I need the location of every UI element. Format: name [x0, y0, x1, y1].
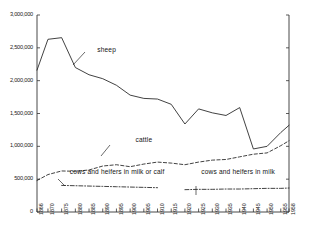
x-axis-tick-label: 1920: [187, 203, 192, 215]
chart-figure: 3,000,0002,500,0002,000,0001,500,0001,00…: [0, 0, 310, 242]
sheep-annotation: sheep: [97, 47, 116, 54]
series-line-sheep: [37, 38, 289, 149]
x-axis-tick-label: 1905: [146, 203, 151, 215]
x-axis-tick-label: 1875: [64, 203, 69, 215]
x-axis-tick-label: 1930: [215, 203, 220, 215]
x-axis-tick-label: 1958: [291, 203, 296, 215]
x-axis-tick-label: 1895: [119, 203, 124, 215]
cows-in-milk-annotation: cows and heifers in milk: [201, 169, 275, 176]
cattle-annotation-leader: [101, 145, 110, 156]
x-axis-tick-label: 1950: [269, 203, 274, 215]
y-axis-tick-label: 500,000: [14, 176, 33, 182]
chart-plot-area: [0, 0, 310, 242]
x-axis-tick-label: 1915: [173, 203, 178, 215]
x-axis-tick-label: 1925: [201, 203, 206, 215]
sheep-annotation-leader: [73, 52, 85, 65]
x-axis-tick-label: 1890: [105, 203, 110, 215]
cows-in-milk-or-calf-annotation: cows and heifers in milk or calf: [70, 169, 165, 176]
x-axis-tick-label: 1935: [228, 203, 233, 215]
y-axis-tick-label: 1,000,000: [10, 143, 33, 149]
y-axis-tick-label: 0: [30, 209, 33, 215]
series-line-cows-and-heifers-in-milk: [185, 188, 289, 190]
x-axis-tick-label: 1900: [132, 203, 137, 215]
cattle-annotation: cattle: [136, 137, 153, 144]
series-lines-group: [37, 38, 289, 190]
y-axis-tick-label: 2,500,000: [10, 45, 33, 51]
x-axis-tick-label: 1940: [242, 203, 247, 215]
x-axis-tick-label: 1910: [160, 203, 165, 215]
x-axis-tick-label: 1870: [50, 203, 55, 215]
x-axis-tick-label: 1945: [256, 203, 261, 215]
cows-in-milk-or-calf-annotation-leader: [58, 179, 65, 186]
series-line-cows-and-heifers-in-milk-or-calf: [62, 185, 158, 187]
x-axis-tick-label: 1885: [91, 203, 96, 215]
x-axis-tick-label: 1880: [78, 203, 83, 215]
y-axis-tick-label: 3,000,000: [10, 12, 33, 18]
x-axis-tick-label: 1955: [283, 203, 288, 215]
y-axis-tick-label: 1,500,000: [10, 111, 33, 117]
x-axis-tick-label: 1866: [39, 203, 44, 215]
y-axis-tick-label: 2,000,000: [10, 78, 33, 84]
